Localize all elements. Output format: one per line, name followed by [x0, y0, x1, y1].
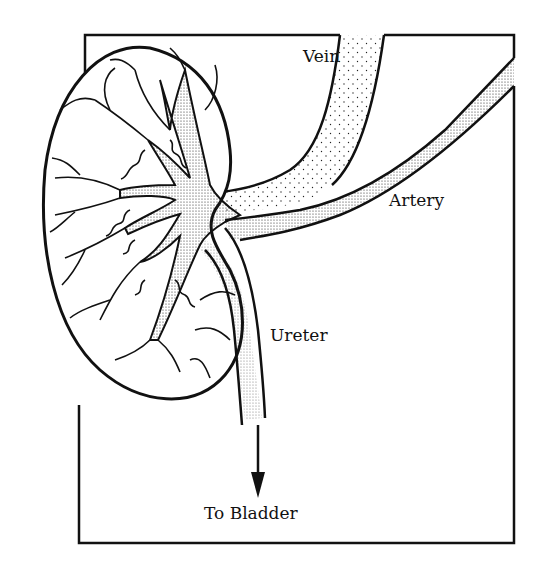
label-to-bladder: To Bladder: [204, 503, 298, 523]
arrow-to-bladder: [251, 425, 265, 498]
kidney-diagram: [0, 0, 540, 575]
vein: [220, 35, 384, 212]
label-vein: Vein: [303, 46, 340, 66]
label-ureter: Ureter: [270, 325, 328, 345]
label-artery: Artery: [389, 190, 444, 210]
